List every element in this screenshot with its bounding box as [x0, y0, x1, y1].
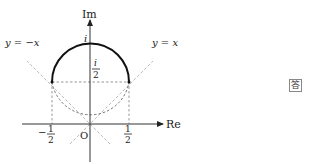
right-fraction-num: 1	[125, 124, 131, 134]
answer-badge: 答	[289, 79, 302, 92]
left-fraction-den: 2	[48, 135, 54, 145]
center-fraction-den: 2	[93, 70, 99, 80]
center-fraction-num: i	[94, 58, 97, 68]
left-endpoint	[51, 81, 54, 84]
right-fraction-den: 2	[125, 135, 131, 145]
re-axis-label: Re	[166, 118, 181, 131]
complex-plane-diagram: Im Re O y = x y = −x i i 2 − 1 2 1 2	[0, 0, 310, 164]
left-fraction-num: 1	[48, 124, 54, 134]
origin-label: O	[80, 130, 88, 141]
top-point-label-i: i	[84, 33, 87, 44]
y-eq-neg-x-label: y = −x	[4, 37, 40, 48]
im-axis-label: Im	[82, 8, 97, 21]
y-eq-x-label: y = x	[151, 37, 178, 48]
right-endpoint	[128, 81, 131, 84]
left-fraction-sign: −	[38, 127, 46, 138]
